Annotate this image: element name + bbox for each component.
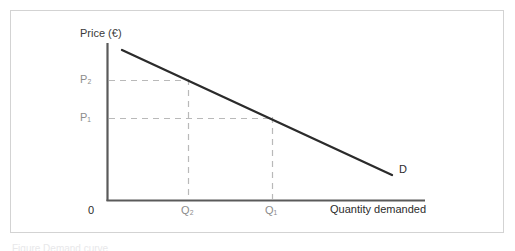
x-tick-label-q2: Q₂ (181, 204, 194, 217)
plot-area (0, 0, 515, 251)
y-axis-title: Price (€) (80, 27, 122, 40)
y-tick-label-p2: P₂ (80, 73, 92, 86)
x-tick-label-q1: Q₁ (265, 204, 277, 217)
figure-caption-sliver: Figure Demand curve (12, 243, 492, 251)
demand-curve-line (122, 50, 392, 175)
y-tick-label-p1: P₁ (80, 111, 91, 124)
x-axis-title: Quantity demanded (330, 203, 426, 216)
demand-curve-label: D (399, 163, 407, 176)
origin-label: 0 (88, 204, 94, 217)
demand-curve-figure: Price (€) Quantity demanded 0 P₂ P₁ Q₂ Q… (0, 0, 515, 251)
